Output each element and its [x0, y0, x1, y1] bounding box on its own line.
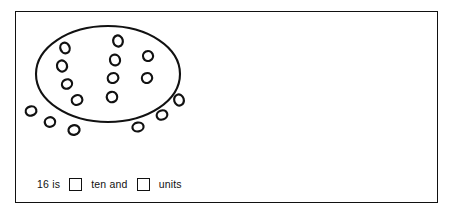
counters-in-ring-diagram: [16, 12, 236, 157]
units-answer-box[interactable]: [137, 178, 150, 191]
counter-inside: [70, 93, 84, 106]
place-value-sentence: 16 is ten and units: [37, 172, 182, 196]
sentence-suffix: units: [159, 179, 182, 190]
counter-outside: [173, 93, 186, 107]
counter-inside: [59, 41, 72, 54]
counter-outside: [67, 124, 80, 136]
sentence-middle: ten and: [91, 179, 127, 190]
counter-inside: [140, 71, 153, 84]
counters-svg: [16, 12, 236, 157]
worksheet-frame: 16 is ten and units: [15, 11, 438, 203]
counter-inside: [60, 77, 74, 90]
tens-answer-box[interactable]: [69, 178, 82, 191]
counter-inside: [56, 59, 69, 73]
counter-inside: [106, 71, 120, 84]
counters-inside-group: [56, 34, 155, 106]
counter-inside: [109, 53, 122, 66]
counter-inside: [112, 34, 124, 47]
counter-outside: [44, 116, 57, 128]
counter-outside: [132, 122, 145, 133]
worksheet-root: 16 is ten and units: [0, 0, 453, 218]
counter-inside: [105, 90, 118, 103]
sentence-prefix: 16 is: [37, 179, 60, 190]
counter-outside: [25, 105, 38, 117]
grouping-ring-ellipse: [36, 26, 180, 122]
counter-outside: [155, 109, 168, 121]
counter-inside: [141, 49, 154, 62]
counters-outside-group: [25, 93, 186, 136]
